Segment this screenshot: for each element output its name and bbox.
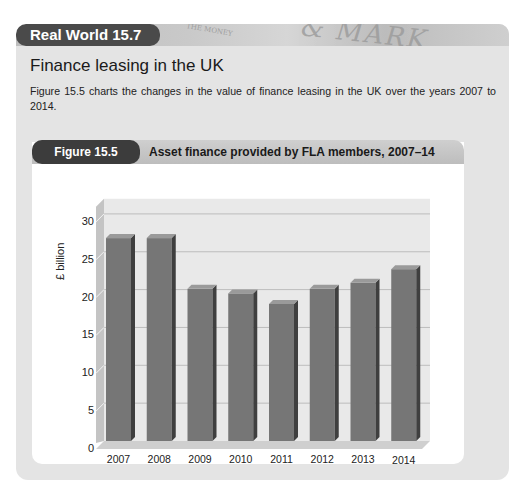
bar-top (188, 285, 217, 289)
y-tick-label: 15 (70, 328, 94, 340)
x-tick-label: 2007 (99, 453, 139, 465)
y-tick-label: 10 (70, 366, 94, 378)
bar-2010 (228, 293, 253, 441)
x-tick-label: 2009 (180, 453, 220, 465)
bar-2008 (147, 238, 172, 441)
side-wall (96, 199, 104, 443)
bar-side (294, 300, 298, 441)
x-tick-label: 2008 (139, 453, 179, 465)
x-tick-label: 2014 (384, 454, 424, 466)
bar-top (147, 234, 176, 238)
bar-side (335, 285, 339, 441)
bar-side (131, 234, 135, 441)
bar-2013 (351, 283, 376, 441)
bar-top (269, 300, 298, 304)
bar-2011 (269, 304, 294, 441)
bar-2014 (391, 269, 416, 441)
bar-2007 (106, 238, 131, 441)
y-tick-label: 0 (70, 442, 94, 454)
x-tick-label: 2010 (221, 453, 261, 465)
bar-top (310, 285, 339, 289)
bar-side (213, 285, 217, 441)
chart-plot-area (0, 0, 522, 495)
y-tick-label: 30 (70, 215, 94, 227)
y-tick-label: 20 (70, 291, 94, 303)
y-tick-label: 25 (70, 253, 94, 265)
bar-top (228, 289, 257, 293)
bar-side (172, 234, 176, 441)
x-tick-label: 2011 (262, 453, 302, 465)
bar-2012 (310, 289, 335, 441)
bar-chart: 051015202530 200720082009201020112012201… (0, 0, 522, 495)
bar-top (106, 234, 135, 238)
bar-2009 (188, 289, 213, 441)
x-tick-label: 2013 (343, 453, 383, 465)
y-axis-label: £ billion (54, 243, 66, 280)
x-tick-label: 2012 (302, 453, 342, 465)
bar-top (391, 265, 420, 269)
bar-top (351, 279, 380, 283)
bar-side (376, 279, 380, 441)
bar-side (253, 289, 257, 441)
y-tick-label: 5 (70, 404, 94, 416)
floor (96, 441, 430, 449)
bar-side (416, 265, 420, 441)
